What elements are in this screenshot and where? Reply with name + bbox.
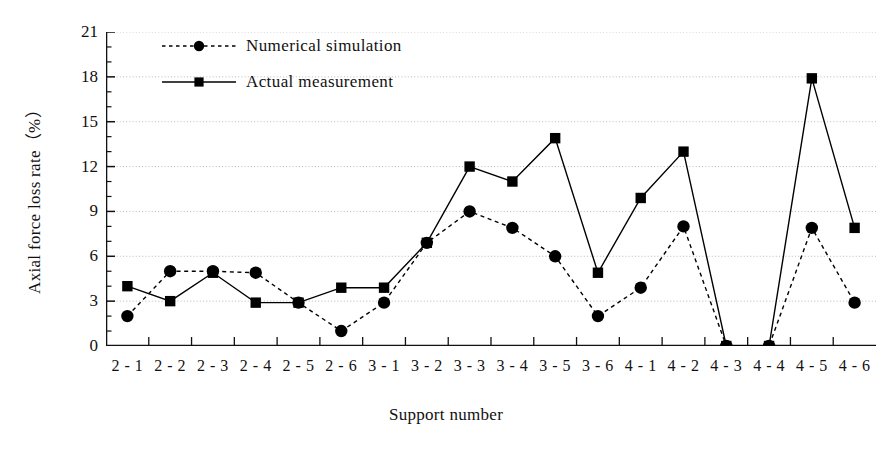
legend-item-numerical-simulation: Numerical simulation — [160, 28, 490, 64]
legend-label-actual-measurement: Actual measurement — [246, 72, 393, 92]
y-axis-tick-label: 3 — [58, 292, 98, 309]
y-axis-title: Axial force loss rate（%） — [20, 48, 45, 348]
y-axis-tick-label: 21 — [58, 23, 98, 40]
legend-item-actual-measurement: Actual measurement — [160, 64, 490, 100]
y-axis-tick-label: 12 — [58, 158, 98, 175]
x-axis-tick-label: 4 - 6 — [825, 358, 885, 374]
chart-figure: Axial force loss rate（%） 036912151821 2 … — [0, 0, 892, 451]
legend-label-numerical-simulation: Numerical simulation — [246, 36, 402, 56]
y-axis-tick-label: 18 — [58, 68, 98, 85]
y-axis-tick-label: 9 — [58, 202, 98, 219]
y-axis-ticks — [107, 32, 115, 346]
y-axis-tick-label: 0 — [58, 337, 98, 354]
legend-marker-square-solid-icon — [160, 73, 238, 91]
y-axis-tick-label: 6 — [58, 247, 98, 264]
x-axis-tick-labels: 2 - 12 - 22 - 32 - 42 - 52 - 63 - 13 - 2… — [106, 358, 876, 388]
series-numerical-simulation — [121, 205, 861, 346]
y-axis-tick-labels: 036912151821 — [52, 0, 98, 451]
legend-marker-circle-dotted-icon — [160, 37, 238, 55]
x-axis-title: Support number — [0, 405, 892, 425]
series-actual-measurement — [122, 73, 860, 346]
chart-legend: Numerical simulation Actual measurement — [160, 28, 490, 100]
y-axis-tick-label: 15 — [58, 113, 98, 130]
